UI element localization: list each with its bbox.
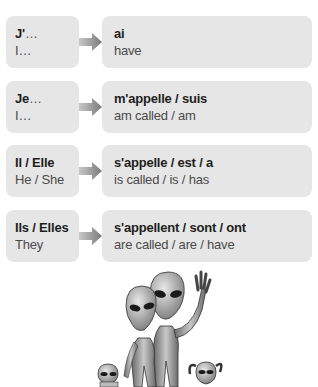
- verb-english: have: [114, 42, 312, 60]
- subject-french: Ils / Elles: [15, 219, 79, 236]
- verb-english: am called / am: [114, 107, 312, 125]
- subject-english: They: [15, 236, 79, 254]
- conjugation-row: J'… I… ai have: [0, 16, 318, 68]
- arrow-right-icon: [79, 226, 102, 246]
- verb-french: s'appellent / sont / ont: [114, 219, 312, 236]
- arrow-right-icon: [79, 32, 102, 52]
- verb-french: m'appelle / suis: [114, 90, 312, 107]
- subject-box: J'… I…: [6, 16, 79, 68]
- subject-french: Il / Elle: [15, 154, 79, 171]
- verb-box: s'appellent / sont / ont are called / ar…: [102, 210, 312, 262]
- subject-box: Je… I…: [6, 81, 79, 133]
- arrow-right-icon: [79, 161, 102, 181]
- verb-english: is called / is / has: [114, 171, 312, 189]
- subject-english: I…: [15, 107, 79, 125]
- verb-box: s'appelle / est / a is called / is / has: [102, 145, 312, 197]
- subject-english: He / She: [15, 171, 79, 189]
- verb-box: ai have: [102, 16, 312, 68]
- verb-english: are called / are / have: [114, 236, 312, 254]
- verb-french: ai: [114, 25, 312, 42]
- subject-box: Il / Elle He / She: [6, 145, 79, 197]
- arrow-right-icon: [79, 97, 102, 117]
- subject-french: Je…: [15, 90, 79, 107]
- subject-english: I…: [15, 42, 79, 60]
- verb-french: s'appelle / est / a: [114, 154, 312, 171]
- alien-family-illustration: [90, 266, 270, 387]
- conjugation-row: Ils / Elles They s'appellent / sont / on…: [0, 210, 318, 262]
- verb-box: m'appelle / suis am called / am: [102, 81, 312, 133]
- conjugation-row: Je… I… m'appelle / suis am called / am: [0, 81, 318, 133]
- subject-french: J'…: [15, 25, 79, 42]
- subject-box: Ils / Elles They: [6, 210, 79, 262]
- conjugation-row: Il / Elle He / She s'appelle / est / a i…: [0, 145, 318, 197]
